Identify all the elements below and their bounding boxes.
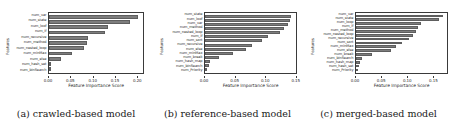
bar [205,39,262,42]
bar [205,35,268,38]
bar [49,15,138,19]
plot-area-c [355,12,448,74]
caption-a: (a) crawled-based model [0,108,152,119]
bar [205,68,207,71]
bar [205,56,219,59]
bar [205,44,252,47]
x-tick-labels-c: 0.000.050.100.15 [355,76,448,82]
bar-series-b [205,13,296,73]
bar [205,48,246,51]
plot-area-a [48,12,144,74]
caption-c: (c) merged-based model [303,108,454,119]
chart-panel-a: Features num_varnum_statenum_loofnum_ifn… [0,0,152,100]
x-axis-title-a: Feature Importance Score [48,83,144,88]
chart-panel-c: Features num_varnum_statenum_loopnum_ifn… [303,0,454,100]
bar [356,69,358,72]
y-tick-label: num_binSearch [0,68,48,73]
bar [49,41,87,45]
bar [49,36,88,40]
y-tick-labels-c: num_varnum_statenum_loopnum_ifnum_method… [305,12,355,74]
plot-area-b [204,12,297,74]
bar [49,52,72,56]
bar [49,57,61,61]
bar [205,52,233,55]
bar [205,64,209,67]
bar [49,31,105,35]
y-tick-labels-b: num_statenum_loofnum_varnum_methodnum_ne… [154,12,204,74]
bar [205,27,284,30]
x-tick-labels-a: 0.000.050.100.150.20 [48,76,144,82]
bar-series-a [49,13,143,73]
figure-panels-row: Features num_varnum_statenum_loofnum_ifn… [0,0,454,100]
y-tick-labels-a: num_varnum_statenum_loofnum_ifnum_recurs… [0,12,48,74]
chart-panel-b: Features num_statenum_loofnum_varnum_met… [152,0,303,100]
bar [205,23,288,26]
bar-row [205,68,296,72]
bar [49,62,51,66]
caption-b: (b) reference-based model [152,108,303,119]
bar [49,25,108,29]
y-tick-label: num_Priority [305,69,355,73]
x-axis-title-b: Feature Importance Score [204,83,297,88]
bar-row [49,67,143,72]
bar [205,15,291,18]
bar [49,67,51,71]
x-tick-labels-b: 0.000.050.100.15 [204,76,297,82]
bar-series-c [356,13,447,73]
bar [205,19,290,22]
bar [205,60,210,63]
captions-row: (a) crawled-based model (b) reference-ba… [0,100,454,126]
bar [49,46,84,50]
bar [49,20,130,24]
bar [205,31,280,34]
bar-row [356,68,447,72]
y-tick-label: num_Priority [154,69,204,73]
x-axis-title-c: Feature Importance Score [355,83,448,88]
